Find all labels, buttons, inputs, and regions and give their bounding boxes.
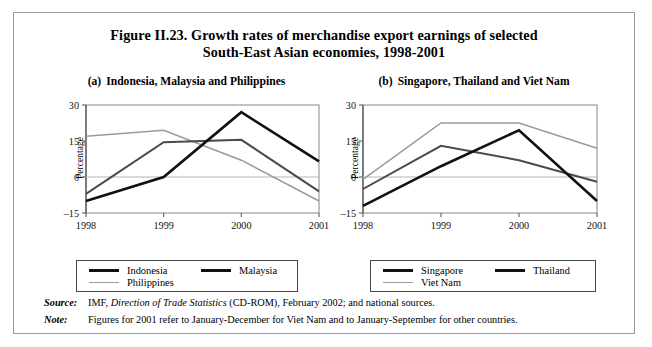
series-line-singapore (363, 130, 597, 206)
footnote-note-text: Figures for 2001 refer to January-Decemb… (88, 313, 614, 326)
legend-item-singapore: Singapore (383, 265, 463, 276)
legend-label: Viet Nam (421, 277, 461, 288)
panel-a-legend: IndonesiaMalaysiaPhilippines (76, 260, 298, 292)
footnote-0-part-2: (CD-ROM), February 2002; and national so… (227, 297, 435, 308)
figure-title: Figure II.23. Growth rates of merchandis… (14, 27, 634, 61)
panel-b-plot: –15015301998199920002001 (329, 97, 619, 219)
legend-item-malaysia: Malaysia (201, 265, 277, 276)
y-tick-label: –15 (63, 208, 79, 219)
footnote-0-part-1: Direction of Trade Statistics (111, 297, 227, 308)
panel-a-plot: –15015301998199920002001 (44, 97, 329, 219)
plot-frame (86, 105, 319, 213)
panel-a-label: (a) (88, 75, 102, 88)
footnote-source-key: Source: (44, 296, 88, 309)
series-line-indonesia (86, 112, 319, 201)
legend-label: Philippines (127, 277, 174, 288)
panel-a-svg: –15015301998199920002001 (44, 97, 329, 242)
y-tick-label: 15 (69, 136, 79, 147)
legend-swatch-icon (383, 282, 413, 284)
footnote-source: Source: IMF, Direction of Trade Statisti… (44, 296, 614, 309)
y-tick-label: 30 (346, 100, 356, 111)
x-tick-label: 2001 (309, 220, 329, 231)
figure-footnotes: Source: IMF, Direction of Trade Statisti… (44, 296, 614, 330)
chart-panel-a: (a)Indonesia, Malaysia and Philippines P… (44, 75, 329, 250)
y-tick-label: 15 (346, 136, 356, 147)
x-tick-label: 2000 (509, 220, 529, 231)
panel-b-svg: –15015301998199920002001 (329, 97, 619, 242)
figure-frame: Figure II.23. Growth rates of merchandis… (13, 12, 635, 334)
legend-label: Singapore (421, 265, 463, 276)
legend-swatch-icon (89, 282, 119, 284)
panel-a-caption: (a)Indonesia, Malaysia and Philippines (44, 75, 329, 88)
panel-b-caption-text: Singapore, Thailand and Viet Nam (398, 75, 570, 88)
y-tick-label: 0 (74, 172, 79, 183)
footnote-note: Note: Figures for 2001 refer to January-… (44, 313, 614, 326)
legend-swatch-icon (383, 269, 413, 272)
legend-item-thailand: Thailand (495, 265, 570, 276)
figure-title-line-2: South-East Asian economies, 1998-2001 (14, 44, 634, 61)
x-tick-label: 1998 (76, 220, 96, 231)
legend-swatch-icon (495, 269, 525, 272)
legend-label: Thailand (533, 265, 570, 276)
panel-a-caption-text: Indonesia, Malaysia and Philippines (106, 75, 285, 88)
x-tick-label: 1998 (353, 220, 373, 231)
chart-panel-b: (b)Singapore, Thailand and Viet Nam Perc… (329, 75, 619, 250)
legend-label: Malaysia (239, 265, 277, 276)
footnote-note-key: Note: (44, 313, 88, 326)
panel-b-label: (b) (378, 75, 392, 88)
footnote-1-part-0: Figures for 2001 refer to January-Decemb… (88, 314, 518, 325)
panel-b-legend: SingaporeThailandViet Nam (370, 260, 596, 292)
legend-label: Indonesia (127, 265, 167, 276)
legend-item-philippines: Philippines (89, 277, 174, 288)
x-tick-label: 2001 (587, 220, 607, 231)
panel-b-caption: (b)Singapore, Thailand and Viet Nam (329, 75, 619, 88)
legend-item-viet-nam: Viet Nam (383, 277, 461, 288)
legend-swatch-icon (89, 269, 119, 272)
legend-item-indonesia: Indonesia (89, 265, 167, 276)
x-tick-label: 2000 (231, 220, 251, 231)
y-tick-label: 0 (351, 172, 356, 183)
series-line-viet-nam (363, 123, 597, 179)
y-tick-label: 30 (69, 100, 79, 111)
plot-frame (363, 105, 597, 213)
x-tick-label: 1999 (153, 220, 173, 231)
figure-title-line-1: Figure II.23. Growth rates of merchandis… (110, 27, 537, 43)
series-line-malaysia (86, 140, 319, 194)
footnote-0-part-0: IMF, (88, 297, 111, 308)
x-tick-label: 1999 (431, 220, 451, 231)
y-tick-label: –15 (340, 208, 356, 219)
legend-swatch-icon (201, 269, 231, 272)
footnote-source-text: IMF, Direction of Trade Statistics (CD-R… (88, 296, 614, 309)
